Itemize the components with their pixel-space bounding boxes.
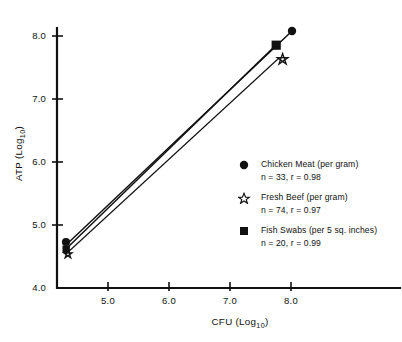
x-tick-label-7: 7.0 bbox=[210, 295, 250, 306]
legend-text-fish-swabs: Fish Swabs (per 5 sq. inches) n = 20, r … bbox=[261, 224, 402, 250]
legend-text-chicken-meat: Chicken Meat (per gram) n = 33, r = 0.98 bbox=[261, 158, 402, 184]
data-markers-right bbox=[272, 27, 297, 64]
y-axis-title: ATP (Log10) bbox=[13, 94, 24, 214]
legend-stats-fish-swabs: n = 20, r = 0.99 bbox=[261, 237, 402, 250]
chart-figure: 8.0 7.0 6.0 5.0 4.0 5.0 6.0 7.0 8.0 CFU … bbox=[0, 0, 402, 342]
marker-circle-left bbox=[62, 238, 70, 246]
x-axis-title-close: ) bbox=[265, 316, 269, 327]
y-tick-label-8: 8.0 bbox=[10, 30, 46, 41]
y-tick-label-4: 4.0 bbox=[10, 282, 46, 293]
y-axis-title-subscript: 10 bbox=[17, 130, 26, 139]
marker-square-left bbox=[63, 246, 70, 253]
open-star-icon bbox=[238, 192, 252, 204]
x-axis-title-main: CFU (Log bbox=[211, 316, 256, 327]
x-tick-label-8: 8.0 bbox=[271, 295, 311, 306]
y-axis-title-main: ATP (Log bbox=[13, 138, 24, 181]
x-tick-label-6: 6.0 bbox=[149, 295, 189, 306]
marker-star-right bbox=[277, 54, 288, 64]
chart-legend: Chicken Meat (per gram) n = 33, r = 0.98… bbox=[238, 158, 402, 257]
marker-square-right bbox=[272, 41, 281, 50]
legend-label-fish-swabs: Fish Swabs (per 5 sq. inches) bbox=[261, 224, 402, 236]
y-axis-title-close: ) bbox=[13, 126, 24, 130]
x-axis-title-subscript: 10 bbox=[256, 321, 265, 330]
legend-entry-chicken-meat: Chicken Meat (per gram) n = 33, r = 0.98 bbox=[238, 158, 402, 184]
legend-label-chicken-meat: Chicken Meat (per gram) bbox=[261, 158, 402, 170]
x-tick-marks bbox=[108, 282, 291, 291]
filled-circle-icon bbox=[238, 159, 252, 171]
y-tick-label-5: 5.0 bbox=[10, 219, 46, 230]
legend-text-fresh-beef: Fresh Beef (per gram) n = 74, r = 0.97 bbox=[261, 191, 402, 217]
legend-entry-fish-swabs: Fish Swabs (per 5 sq. inches) n = 20, r … bbox=[238, 224, 402, 250]
filled-square-icon bbox=[238, 225, 252, 237]
legend-stats-chicken-meat: n = 33, r = 0.98 bbox=[261, 171, 402, 184]
marker-circle-right bbox=[288, 27, 296, 35]
x-axis-title: CFU (Log10) bbox=[175, 316, 305, 327]
legend-entry-fresh-beef: Fresh Beef (per gram) n = 74, r = 0.97 bbox=[238, 191, 402, 217]
x-tick-label-5: 5.0 bbox=[88, 295, 128, 306]
legend-stats-fresh-beef: n = 74, r = 0.97 bbox=[261, 204, 402, 217]
legend-label-fresh-beef: Fresh Beef (per gram) bbox=[261, 191, 402, 203]
